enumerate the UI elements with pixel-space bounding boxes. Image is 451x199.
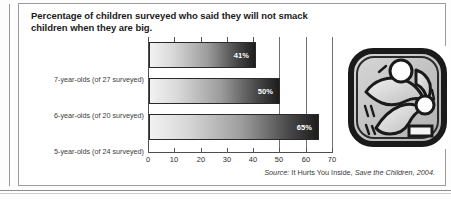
- page-bottom-rule-secondary: [0, 193, 451, 194]
- tick-bottom-60: [306, 148, 307, 153]
- plot-area: 41% 50% 65% 0 10 20 30 40 50 60 70: [148, 37, 332, 153]
- figure-container: Percentage of children surveyed who said…: [18, 3, 446, 186]
- source-prefix: Source:: [264, 168, 289, 177]
- tick-bottom-10: [174, 148, 175, 153]
- tick-bottom-40: [253, 148, 254, 153]
- bar-6-year-olds[interactable]: 50%: [149, 78, 280, 104]
- source-org: Save the Children,: [355, 168, 415, 177]
- category-label-5-year-olds: 5-year-olds (of 24 surveyed): [14, 147, 144, 156]
- bar-value-6-year-olds: 50%: [258, 87, 273, 96]
- category-label-7-year-olds: 7-year-olds (of 27 surveyed): [14, 75, 144, 84]
- category-label-6-year-olds: 6-year-olds (of 20 surveyed): [14, 111, 144, 120]
- bar-7-year-olds[interactable]: 41%: [149, 42, 256, 68]
- bar-5-year-olds[interactable]: 65%: [149, 114, 319, 140]
- bar-chart: 7-year-olds (of 27 surveyed) 6-year-olds…: [29, 35, 334, 165]
- source-caption: Source: It Hurts You Inside, Save the Ch…: [264, 168, 435, 177]
- xtick-label-60: 60: [302, 155, 310, 164]
- xtick-label-0: 0: [146, 155, 150, 164]
- page-surface: Percentage of children surveyed who said…: [0, 0, 451, 199]
- xtick-label-20: 20: [197, 155, 205, 164]
- tick-bottom-70: [332, 148, 333, 153]
- source-work: It Hurts You Inside,: [291, 168, 352, 177]
- source-year: 2004.: [417, 168, 435, 177]
- page-left-rule: [9, 4, 10, 186]
- xtick-label-10: 10: [170, 155, 178, 164]
- gridline-70: [332, 37, 333, 153]
- page-bottom-rule: [0, 190, 451, 191]
- bar-value-7-year-olds: 41%: [234, 51, 249, 60]
- abstract-figures-artwork-icon: [346, 46, 449, 149]
- tick-bottom-20: [201, 148, 202, 153]
- figure-title: Percentage of children surveyed who said…: [31, 10, 341, 34]
- tick-bottom-0: [148, 148, 149, 153]
- tick-bottom-30: [227, 148, 228, 153]
- xtick-label-50: 50: [275, 155, 283, 164]
- tick-bottom-50: [279, 148, 280, 153]
- xtick-label-30: 30: [223, 155, 231, 164]
- xtick-label-70: 70: [328, 155, 336, 164]
- xtick-label-40: 40: [249, 155, 257, 164]
- bar-value-5-year-olds: 65%: [297, 123, 312, 132]
